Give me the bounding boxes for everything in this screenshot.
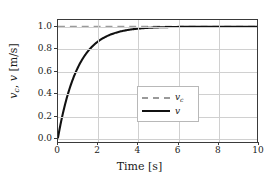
y-axis-tick-label: 0.0 bbox=[22, 133, 52, 143]
gridline-horizontal bbox=[58, 49, 257, 50]
y-axis-tick bbox=[54, 138, 57, 139]
legend-item-v[interactable]: v bbox=[142, 104, 194, 117]
legend-label-v: v bbox=[175, 106, 180, 116]
x-axis-tick-label: 2 bbox=[94, 145, 100, 155]
y-axis-label-comma: , bbox=[7, 81, 20, 88]
y-axis-tick bbox=[54, 26, 57, 27]
y-axis-label: vc, v [m/s] bbox=[7, 16, 21, 126]
gridline-vertical bbox=[138, 20, 139, 142]
y-axis-label-var1-sub: c bbox=[12, 88, 21, 92]
y-axis-label-var2: v bbox=[7, 75, 20, 81]
x-axis-tick-label: 10 bbox=[252, 145, 263, 155]
y-axis-label-unit: [m/s] bbox=[7, 43, 20, 71]
y-axis-label-var1: v bbox=[7, 92, 20, 98]
gridline-vertical bbox=[219, 20, 220, 142]
y-axis-tick bbox=[54, 93, 57, 94]
y-axis-tick bbox=[54, 48, 57, 49]
chart-figure: vc v Time [s] vc, v [m/s] 02468100.00.20… bbox=[0, 0, 279, 187]
x-axis-tick-label: 4 bbox=[135, 145, 141, 155]
gridline-horizontal bbox=[58, 27, 257, 28]
y-axis-tick bbox=[54, 71, 57, 72]
y-axis-tick-label: 0.2 bbox=[22, 111, 52, 121]
plot-area bbox=[57, 19, 258, 143]
y-axis-tick-label: 1.0 bbox=[22, 21, 52, 31]
x-axis-label: Time [s] bbox=[0, 160, 279, 173]
y-axis-tick-label: 0.8 bbox=[22, 43, 52, 53]
data-curves bbox=[58, 20, 257, 142]
legend-swatch-dashed bbox=[142, 97, 170, 99]
gridline-horizontal bbox=[58, 72, 257, 73]
gridline-vertical bbox=[179, 20, 180, 142]
x-axis-tick-label: 0 bbox=[54, 145, 60, 155]
y-axis-tick bbox=[54, 116, 57, 117]
x-axis-tick-label: 8 bbox=[215, 145, 221, 155]
x-axis-label-text: Time bbox=[117, 160, 145, 173]
x-axis-tick-label: 6 bbox=[175, 145, 181, 155]
legend-item-v-c[interactable]: vc bbox=[142, 91, 194, 104]
gridline-vertical bbox=[98, 20, 99, 142]
y-axis-tick-label: 0.4 bbox=[22, 88, 52, 98]
y-axis-tick-label: 0.6 bbox=[22, 66, 52, 76]
legend-swatch-solid bbox=[142, 110, 170, 112]
y-axis-label-unit-space bbox=[7, 72, 20, 76]
gridline-horizontal bbox=[58, 139, 257, 140]
chart-legend[interactable]: vc v bbox=[137, 86, 199, 122]
legend-label-v-c: vc bbox=[175, 92, 184, 103]
x-axis-label-unit: [s] bbox=[148, 160, 162, 173]
